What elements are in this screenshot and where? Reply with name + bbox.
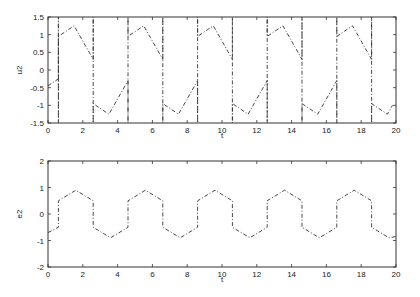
y-tick-label: 0 xyxy=(40,66,45,75)
x-tick-label: 18 xyxy=(357,270,366,279)
y-tick-label: 1.5 xyxy=(33,13,45,22)
x-tick-label: 8 xyxy=(185,126,190,135)
y-tick-label: 0 xyxy=(40,210,45,219)
e2-line xyxy=(48,190,396,238)
x-tick-label: 16 xyxy=(322,126,331,135)
y-tick-label: -0.5 xyxy=(30,84,44,93)
axes-frame xyxy=(48,17,396,123)
x-tick-label: 6 xyxy=(150,126,155,135)
x-tick-label: 4 xyxy=(115,270,120,279)
x-tick-label: 14 xyxy=(287,126,296,135)
u2-line xyxy=(48,17,393,123)
x-tick-label: 14 xyxy=(287,270,296,279)
x-tick-label: 0 xyxy=(46,270,51,279)
x-tick-label: 20 xyxy=(392,126,401,135)
x-tick-label: 20 xyxy=(392,270,401,279)
y-axis-label: e2 xyxy=(15,209,24,218)
x-tick-label: 18 xyxy=(357,126,366,135)
x-tick-label: 2 xyxy=(81,126,86,135)
x-tick-label: 16 xyxy=(322,270,331,279)
y-axis-label: u2 xyxy=(15,65,24,74)
x-tick-label: 12 xyxy=(252,270,261,279)
y-tick-label: -1 xyxy=(37,237,45,246)
x-tick-label: 4 xyxy=(115,126,120,135)
x-tick-label: 2 xyxy=(81,270,86,279)
axes-frame xyxy=(48,161,396,267)
y-tick-label: 1 xyxy=(40,184,45,193)
e2-plot: 02468101214161820-2-1012te2 xyxy=(15,157,401,284)
y-tick-label: 2 xyxy=(40,157,45,166)
x-tick-label: 0 xyxy=(46,126,51,135)
x-tick-label: 8 xyxy=(185,270,190,279)
y-tick-label: -1.5 xyxy=(30,119,44,128)
figure: 02468101214161820-1.5-1-0.500.511.5tu2 0… xyxy=(0,0,420,297)
x-tick-label: 12 xyxy=(252,126,261,135)
y-tick-label: -2 xyxy=(37,263,45,272)
y-tick-label: 0.5 xyxy=(33,48,45,57)
y-tick-label: 1 xyxy=(40,31,45,40)
y-tick-label: -1 xyxy=(37,101,45,110)
x-tick-label: 6 xyxy=(150,270,155,279)
u2-plot: 02468101214161820-1.5-1-0.500.511.5tu2 xyxy=(15,13,401,140)
